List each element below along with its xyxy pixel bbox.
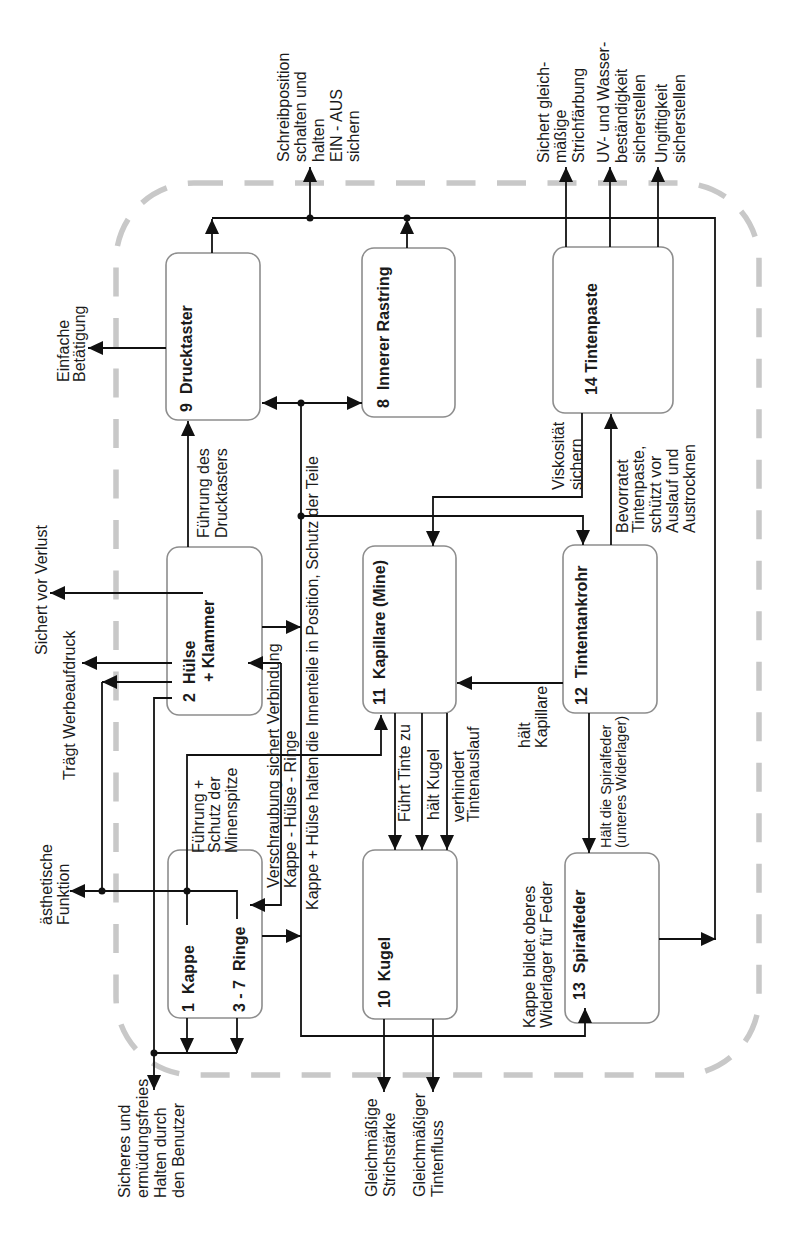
relation-label-widerlager-feder: Kappe bildet oberes Widerlager für Feder: [521, 881, 555, 1028]
relation-label-verhindert-auslauf: verhindert Tintenauslauf: [450, 726, 482, 822]
junction-dot: [404, 215, 411, 222]
label-line: Tintenfluss: [429, 1120, 446, 1197]
label-line: Hält die Spiralfeder: [598, 725, 614, 848]
component-name: Drucktaster: [178, 305, 195, 394]
label-line: sicherstellen: [671, 74, 688, 163]
component-label-ringe: 3 - 7Ringe: [231, 926, 248, 1012]
label-line: beständigkeit: [613, 68, 630, 163]
component-number: 8: [375, 399, 392, 408]
label-line: (unteres Widerlager): [613, 716, 629, 848]
label-line: Viskosität: [550, 421, 567, 490]
label-line: den Benutzer: [170, 1102, 187, 1198]
component-number: 9: [178, 403, 195, 412]
component-number: 1: [180, 1003, 197, 1012]
label-line: Auslauf und: [664, 448, 681, 533]
label-line: Führung des: [195, 448, 212, 538]
label-line: Trägt Werbeaufdruck: [61, 630, 78, 780]
function-label-aesthetische-funktion: ästhetische Funktion: [38, 840, 72, 925]
function-label-sichert-vor-verlust: Sichert vor Verlust: [33, 525, 50, 655]
label-line: Sichert vor Verlust: [33, 525, 50, 655]
label-line: Schreibposition: [275, 53, 292, 162]
component-number: 14: [583, 377, 600, 395]
label-line: hält: [516, 722, 533, 748]
label-line: Austrocknen: [681, 444, 698, 533]
label-line: Drucktasters: [213, 448, 230, 538]
component-number: 11: [371, 688, 388, 705]
label-line: halten: [310, 118, 327, 162]
label-line: ästhetische: [38, 844, 55, 925]
component-name: Innerer Rastring: [375, 267, 392, 391]
component-label-klammer: + Klammer: [200, 600, 217, 682]
function-label-uv-wasser: UV- und Wasser- beständigkeit sicherstel…: [595, 37, 648, 163]
label-line: schützt vor: [647, 455, 664, 533]
function-label-strichfaerbung: Sichert gleich- mäßige Strichfärbung: [535, 57, 587, 163]
label-line: Betätigung: [71, 305, 88, 382]
label-line: Führung +: [190, 780, 207, 853]
component-label-innerer-rastring: 8Innerer Rastring: [375, 267, 392, 409]
label-line: mäßige: [552, 110, 569, 163]
component-number: 12: [573, 687, 590, 705]
label-line: schalten und: [292, 71, 309, 162]
relation-label-haelt-spiralfeder: Hält die Spiralfeder (unteres Widerlager…: [598, 716, 629, 848]
relation-label-fuehrung-minenspitze: Führung + Schutz der Minenspitze: [190, 768, 240, 853]
label-line: Ungiftigkeit: [653, 83, 670, 163]
label-line: Sichert gleich-: [535, 62, 552, 163]
function-label-schreibposition: Schreibposition schalten und halten EIN …: [275, 48, 363, 162]
component-name: Tintenpaste: [583, 283, 600, 373]
label-line: Sicheres und: [116, 1105, 133, 1198]
component-name: Kugel: [376, 937, 393, 981]
box-tintenpaste: [553, 247, 673, 413]
component-label-tintenpaste: 14Tintenpaste: [583, 283, 600, 395]
component-name: Ringe: [231, 926, 248, 971]
label-line: Bevorratet: [614, 459, 631, 533]
label-line: sichern: [345, 110, 362, 162]
function-label-ungiftigkeit: Ungiftigkeit sicherstellen: [653, 74, 688, 163]
label-line: Gleichmäßige: [363, 1098, 380, 1197]
component-name: Hülse: [181, 640, 198, 684]
component-name: + Klammer: [200, 600, 217, 682]
component-number: 10: [376, 990, 393, 1008]
label-line: ermüdungsfreies: [134, 1079, 151, 1198]
component-label-spiralfeder: 13Spiralfeder: [571, 890, 588, 1000]
component-number: 13: [571, 982, 588, 1000]
component-name: Spiralfeder: [571, 890, 588, 974]
label-line: Kappe bildet oberes: [521, 886, 538, 1028]
component-label-kugel: 10Kugel: [376, 937, 393, 1008]
label-line: hält Kugel: [425, 749, 442, 820]
arrow-innenteile-to-tintentankrohr: [301, 516, 583, 545]
label-line: sicherstellen: [631, 74, 648, 163]
label-line: UV- und Wasser-: [595, 42, 612, 163]
component-name: Kappe: [180, 945, 197, 994]
function-label-einfache-betaetigung: Einfache Betätigung: [55, 305, 89, 382]
label-line: Kappe + Hülse halten die Innenteile in P…: [304, 456, 321, 910]
function-label-tintenfluss: Gleichmäßiger Tintenfluss: [411, 1089, 447, 1197]
component-number: 2: [181, 693, 198, 702]
component-name: Tintentankrohr: [573, 566, 590, 679]
label-line: sichern: [568, 438, 585, 490]
label-line: Widerlager für Feder: [538, 881, 555, 1028]
label-line: Funktion: [55, 864, 72, 925]
label-line: Einfache: [55, 320, 72, 382]
label-line: Tintenpaste,: [630, 446, 647, 533]
label-line: Halten durch: [152, 1107, 169, 1198]
function-label-strichstaerke: Gleichmäßige Strichstärke: [363, 1094, 398, 1197]
label-line: Gleichmäßiger: [411, 1092, 428, 1197]
relation-label-viskositaet: Viskosität sichern: [550, 417, 585, 490]
label-line: Kappe - Hülse - Ringe: [282, 730, 299, 888]
label-line: Strichstärke: [381, 1112, 398, 1197]
relation-label-haelt-kapillare: hält Kapillare: [516, 686, 550, 748]
label-line: Minenspitze: [223, 768, 240, 853]
function-label-sicheres-halten: Sicheres und ermüdungsfreies Halten durc…: [116, 1074, 187, 1198]
label-line: Kapillare: [533, 686, 550, 748]
junction-dot: [99, 888, 106, 895]
label-line: Tintenauslauf: [465, 726, 482, 822]
junction-dot: [151, 1050, 158, 1057]
relation-label-fuehrung-drucktaster: Führung des Drucktasters: [195, 444, 230, 538]
component-number: 3 - 7: [231, 980, 248, 1012]
junction-dot: [307, 215, 314, 222]
function-structure-diagram: 9Drucktaster 8Innerer Rastring 14Tintenp…: [0, 0, 786, 1246]
component-name: Kapillare (Mine): [371, 560, 388, 679]
relation-label-innenteile-position: Kappe + Hülse halten die Innenteile in P…: [304, 456, 321, 910]
relation-label-bevorratet: Bevorratet Tintenpaste, schützt vor Ausl…: [614, 441, 698, 533]
relation-label-fuehrt-tinte: Führt Tinte zu: [396, 724, 413, 822]
